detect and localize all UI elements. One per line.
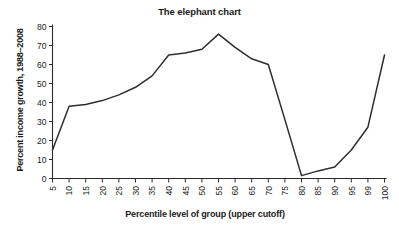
x-tick-label: 10 <box>64 186 74 196</box>
x-tick-label: 35 <box>147 186 157 196</box>
y-tick-label: 50 <box>37 79 47 89</box>
y-tick-label: 30 <box>37 117 47 127</box>
y-tick-label: 0 <box>42 174 47 184</box>
x-tick-label: 100 <box>380 186 390 200</box>
x-tick-label: 80 <box>297 186 307 196</box>
y-tick-label: 60 <box>37 60 47 70</box>
x-tick-label: 5 <box>48 186 58 191</box>
plot-area: 01020304050607080 5101520253035404550556… <box>0 0 399 231</box>
x-tick-label: 65 <box>247 186 257 196</box>
x-tick-label: 15 <box>81 186 91 196</box>
x-tick-label: 70 <box>264 186 274 196</box>
chart-figure: The elephant chart Percent income growth… <box>0 0 399 231</box>
x-tick-label: 60 <box>230 186 240 196</box>
y-tick-label: 70 <box>37 41 47 51</box>
x-tick-label: 55 <box>214 186 224 196</box>
x-tick-label: 25 <box>114 186 124 196</box>
x-tick-label: 20 <box>98 186 108 196</box>
y-tick-label: 80 <box>37 22 47 32</box>
x-tick-label: 30 <box>131 186 141 196</box>
x-tick-label: 45 <box>181 186 191 196</box>
x-tick-label: 95 <box>347 186 357 196</box>
x-tick-label: 40 <box>164 186 174 196</box>
x-axis-tick-group: 5101520253035404550556065707580859095991… <box>48 179 390 201</box>
y-axis-tick-group: 01020304050607080 <box>37 22 52 184</box>
y-tick-label: 20 <box>37 136 47 146</box>
x-axis-title: Percentile level of group (upper cutoff) <box>30 209 380 219</box>
x-tick-label: 90 <box>330 186 340 196</box>
x-tick-label: 50 <box>197 186 207 196</box>
data-series-line <box>53 34 385 176</box>
x-tick-label: 75 <box>280 186 290 196</box>
x-tick-label: 85 <box>313 186 323 196</box>
x-tick-label: 99 <box>363 186 373 196</box>
y-tick-label: 10 <box>37 155 47 165</box>
y-tick-label: 40 <box>37 98 47 108</box>
